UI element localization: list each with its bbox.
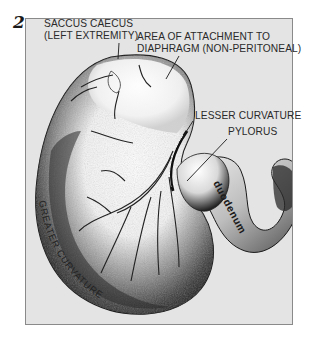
- stomach-body: [36, 55, 229, 314]
- label-saccus-caecus-line1: SACCUS CAECUS: [44, 18, 138, 30]
- stomach-illustration: duodenum GREATER CURVATURE: [26, 19, 293, 325]
- label-area-attachment-line1: AREA OF ATTACHMENT TO: [137, 31, 301, 43]
- figure-number: 2: [13, 14, 25, 31]
- label-pylorus: PYLORUS: [228, 126, 277, 138]
- label-saccus-caecus-line2: (LEFT EXTREMITY): [44, 30, 138, 42]
- illustration-frame: duodenum GREATER CURVATURE: [25, 18, 293, 325]
- label-saccus-caecus: SACCUS CAECUS (LEFT EXTREMITY): [44, 18, 138, 42]
- label-area-attachment-line2: DIAPHRAGM (NON-PERITONEAL): [137, 43, 301, 55]
- label-area-attachment: AREA OF ATTACHMENT TO DIAPHRAGM (NON-PER…: [137, 31, 301, 55]
- label-lesser-curvature: LESSER CURVATURE: [195, 110, 301, 122]
